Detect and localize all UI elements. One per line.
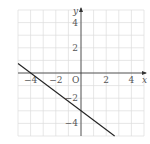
x-tick-label: −2 <box>49 75 62 85</box>
y-tick-label: 2 <box>72 43 78 53</box>
y-arrow-icon <box>79 7 83 12</box>
x-tick-label: 4 <box>129 75 135 85</box>
axes <box>18 7 147 136</box>
y-tick-label: −2 <box>65 93 78 103</box>
y-tick-label: −4 <box>65 118 79 128</box>
origin-label: O <box>72 75 79 85</box>
line-chart: −4−22442−2−4 x y O <box>0 0 150 144</box>
y-tick-label: 4 <box>72 18 78 28</box>
x-axis-label: x <box>142 75 147 85</box>
x-tick-label: 2 <box>103 75 109 85</box>
y-axis-label: y <box>72 6 79 16</box>
